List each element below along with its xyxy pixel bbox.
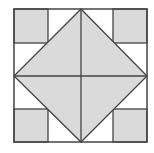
corner-square-top-right [113, 9, 147, 43]
corner-square-bottom-right [113, 109, 147, 142]
corner-square-top-left [14, 9, 48, 43]
corner-square-bottom-left [14, 109, 48, 142]
quilt-diagram [0, 0, 154, 153]
